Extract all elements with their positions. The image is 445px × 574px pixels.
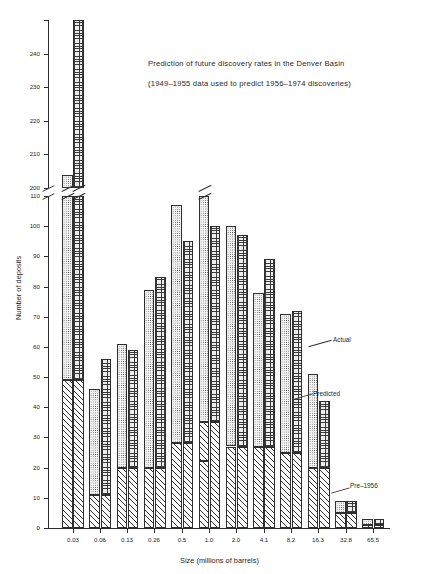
y-tick-label: 10 bbox=[18, 494, 40, 501]
pre-base-actual bbox=[292, 453, 303, 528]
x-tick-label: 0.26 bbox=[139, 536, 169, 543]
bar-actual bbox=[264, 259, 275, 446]
pre-base-actual bbox=[128, 468, 139, 528]
y-axis-lower bbox=[48, 196, 49, 529]
x-tick-label: 1.0 bbox=[194, 536, 224, 543]
pre-base-predicted bbox=[199, 422, 210, 528]
y-tick-label: 0 bbox=[18, 524, 40, 531]
y-tick-label: 230 bbox=[18, 83, 40, 90]
x-tick bbox=[182, 529, 183, 533]
x-tick bbox=[209, 529, 210, 533]
bar-break-mark bbox=[198, 185, 211, 192]
x-tick bbox=[291, 529, 292, 533]
x-tick bbox=[127, 529, 128, 533]
y-tick-label: 210 bbox=[18, 150, 40, 157]
pre-base-predicted bbox=[144, 468, 155, 528]
y-tick-label: 20 bbox=[18, 464, 40, 471]
bar-actual bbox=[292, 311, 303, 453]
bar-actual bbox=[155, 277, 166, 467]
bar-actual bbox=[73, 196, 84, 380]
y-tick-label: 30 bbox=[18, 433, 40, 440]
pre-base-predicted bbox=[280, 453, 291, 528]
bar-predicted bbox=[199, 460, 210, 462]
pre-base-actual bbox=[264, 447, 275, 528]
x-tick bbox=[236, 529, 237, 533]
pre-base-actual bbox=[101, 495, 112, 528]
x-tick bbox=[154, 529, 155, 533]
y-tick bbox=[44, 317, 48, 318]
x-tick-label: 0.13 bbox=[112, 536, 142, 543]
bar-predicted bbox=[144, 290, 155, 468]
x-tick bbox=[346, 529, 347, 533]
pre-base-actual bbox=[183, 443, 194, 528]
bar-predicted bbox=[89, 389, 100, 495]
pre-base-predicted bbox=[117, 468, 128, 528]
annotation-pre1956: Pre–1956 bbox=[350, 482, 378, 489]
bar-actual bbox=[183, 241, 194, 443]
pre-base-actual bbox=[374, 525, 385, 528]
chart-root: Prediction of future discovery rates in … bbox=[0, 0, 445, 574]
y-tick bbox=[44, 347, 48, 348]
bar-predicted bbox=[253, 293, 264, 447]
annotation-actual: Actual bbox=[333, 336, 351, 343]
pre-base-predicted bbox=[89, 495, 100, 528]
pre-base-actual bbox=[155, 468, 166, 528]
pre-base-predicted bbox=[335, 513, 346, 528]
leader-actual bbox=[308, 340, 331, 348]
pre-base-actual bbox=[73, 380, 84, 528]
y-tick-label: 90 bbox=[18, 252, 40, 259]
y-tick bbox=[44, 377, 48, 378]
bar-actual bbox=[237, 235, 248, 446]
y-tick-label: 110 bbox=[18, 192, 40, 199]
y-tick bbox=[44, 121, 48, 122]
pre-base-predicted bbox=[362, 525, 373, 528]
bar-actual bbox=[210, 226, 221, 422]
y-tick-label: 100 bbox=[18, 222, 40, 229]
x-tick bbox=[73, 529, 74, 533]
y-tick bbox=[44, 188, 48, 189]
y-tick bbox=[44, 256, 48, 257]
y-tick bbox=[44, 20, 48, 21]
x-tick-label: 4.1 bbox=[249, 536, 279, 543]
x-tick bbox=[100, 529, 101, 533]
y-tick bbox=[44, 196, 48, 197]
x-tick bbox=[318, 529, 319, 533]
y-tick bbox=[44, 498, 48, 499]
y-tick-label: 70 bbox=[18, 313, 40, 320]
y-tick bbox=[44, 154, 48, 155]
x-tick-label: 0.5 bbox=[167, 536, 197, 543]
x-tick-label: 65.5 bbox=[358, 536, 388, 543]
x-tick-label: 0.06 bbox=[85, 536, 115, 543]
pre-base-predicted bbox=[171, 443, 182, 528]
x-tick-label: 16.3 bbox=[303, 536, 333, 543]
y-tick-label: 80 bbox=[18, 283, 40, 290]
bar-actual bbox=[128, 350, 139, 468]
bar-actual bbox=[374, 519, 385, 525]
x-tick-label: 32.8 bbox=[331, 536, 361, 543]
bar-actual bbox=[101, 359, 112, 495]
bar-predicted bbox=[362, 519, 373, 525]
x-tick-label: 0.03 bbox=[58, 536, 88, 543]
bar-actual bbox=[346, 501, 357, 513]
annotation-predicted: Predicted bbox=[313, 390, 340, 397]
pre-base-actual bbox=[210, 422, 221, 528]
y-tick bbox=[44, 407, 48, 408]
pre-base-actual bbox=[237, 447, 248, 528]
y-tick bbox=[44, 287, 48, 288]
bar-predicted bbox=[117, 344, 128, 468]
y-tick bbox=[44, 437, 48, 438]
y-tick bbox=[44, 528, 48, 529]
x-tick bbox=[264, 529, 265, 533]
y-tick bbox=[44, 54, 48, 55]
y-tick-label: 220 bbox=[18, 117, 40, 124]
x-tick bbox=[373, 529, 374, 533]
chart-title: Prediction of future discovery rates in … bbox=[148, 60, 438, 68]
pre-base-predicted bbox=[62, 380, 73, 528]
y-tick bbox=[44, 226, 48, 227]
bar-predicted bbox=[226, 226, 237, 446]
chart-title-block: Prediction of future discovery rates in … bbox=[148, 60, 438, 99]
x-tick-label: 2.0 bbox=[221, 536, 251, 543]
pre-base-actual bbox=[319, 468, 330, 528]
pre-base-predicted bbox=[253, 447, 264, 528]
bar-predicted bbox=[308, 374, 319, 468]
